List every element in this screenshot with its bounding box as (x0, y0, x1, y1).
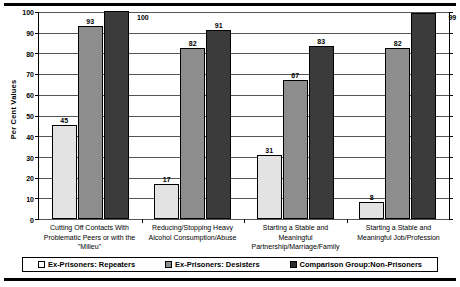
bar-slot: 31 (257, 12, 282, 219)
bar-slot: 99 (411, 12, 436, 219)
bar-slot: 91 (206, 12, 231, 219)
legend-item[interactable]: Ex-Prisoners: Repeaters (38, 260, 135, 269)
y-axis-tick-mark-right (449, 198, 453, 199)
category-label: Reducing/Stopping HeavyAlcohol Consumpti… (141, 223, 244, 252)
y-axis-tick-label: 30 (26, 154, 34, 161)
legend-swatch-icon (290, 261, 297, 268)
bar-value-label: 82 (189, 40, 197, 47)
y-axis-tick-mark-right (449, 74, 453, 75)
chart-legend: Ex-Prisoners: RepeatersEx-Prisoners: Des… (22, 257, 438, 272)
category-label-line: Starting a Stable and (348, 223, 449, 233)
bar-value-label: 31 (265, 147, 273, 154)
y-axis-tick-mark-right (449, 95, 453, 96)
bar[interactable] (309, 46, 334, 219)
legend-swatch-icon (165, 261, 172, 268)
bar-group: 316783 (244, 12, 347, 219)
y-axis-title: Per Cent Values (9, 50, 18, 170)
bar[interactable] (180, 48, 205, 219)
y-axis-tick-label: 80 (26, 50, 34, 57)
bar[interactable] (411, 13, 436, 219)
y-axis-tick-mark (35, 219, 39, 220)
bar[interactable] (359, 202, 384, 219)
y-axis-tick-mark-right (449, 33, 453, 34)
bar-value-label: 83 (317, 38, 325, 45)
category-label-line: Partnership/Marriage/Family (245, 242, 346, 252)
bar-slot: 67 (283, 12, 308, 219)
bar-slot: 82 (180, 12, 205, 219)
category-label-line: Starting a Stable and (245, 223, 346, 233)
y-axis-tick-label: 40 (26, 133, 34, 140)
y-axis-tick-mark-right (449, 12, 453, 13)
bar[interactable] (52, 125, 77, 219)
y-axis-tick-mark-right (449, 136, 453, 137)
bar-value-label: 67 (291, 72, 299, 79)
category-axis-labels: Cutting Off Contacts WithProblematic Pee… (38, 223, 450, 252)
chart-figure: Per Cent Values 0102030405060708090100 4… (0, 0, 460, 287)
y-axis-tick-mark-right (449, 157, 453, 158)
bar-value-label: 99 (448, 14, 456, 21)
legend-item[interactable]: Comparison Group:Non-Prisoners (290, 260, 423, 269)
bar-group: 88299 (347, 12, 450, 219)
category-label-line: "Milieu" (39, 242, 140, 252)
y-axis-tick-label: 20 (26, 175, 34, 182)
y-axis-tick-label: 70 (26, 71, 34, 78)
bar-slot: 82 (385, 12, 410, 219)
y-axis-tick-mark-right (449, 219, 453, 220)
category-label: Starting a Stable andMeaningfulPartnersh… (244, 223, 347, 252)
bar-group: 4593100 (39, 12, 142, 219)
bar-value-label: 82 (394, 40, 402, 47)
bar-slot: 93 (78, 12, 103, 219)
bar-slot: 100 (104, 12, 129, 219)
legend-item-label: Comparison Group:Non-Prisoners (300, 260, 423, 269)
bar-groups: 459310017829131678388299 (39, 12, 449, 219)
bar[interactable] (385, 48, 410, 219)
y-axis-tick-mark-right (449, 178, 453, 179)
legend-item[interactable]: Ex-Prisoners: Desisters (165, 260, 260, 269)
bar-slot: 83 (309, 12, 334, 219)
bar-value-label: 91 (215, 22, 223, 29)
plot-area: 0102030405060708090100 45931001782913167… (38, 12, 450, 220)
bar[interactable] (283, 80, 308, 219)
category-label-line: Meaningful Job/Profession (348, 233, 449, 243)
bar-slot: 17 (154, 12, 179, 219)
bar[interactable] (78, 26, 103, 219)
category-label: Starting a Stable andMeaningful Job/Prof… (347, 223, 450, 252)
bottom-rule (4, 278, 456, 281)
category-label: Cutting Off Contacts WithProblematic Pee… (38, 223, 141, 252)
bar-value-label: 45 (60, 117, 68, 124)
category-label-line: Alcohol Consumption/Abuse (142, 233, 243, 243)
y-axis-tick-label: 0 (30, 217, 34, 224)
legend-swatch-icon (38, 261, 45, 268)
y-axis-tick-label: 50 (26, 113, 34, 120)
y-axis-tick-mark-right (449, 116, 453, 117)
legend-item-label: Ex-Prisoners: Desisters (175, 260, 260, 269)
y-axis-tick-label: 90 (26, 29, 34, 36)
bar-value-label: 17 (163, 176, 171, 183)
bar[interactable] (154, 184, 179, 219)
bar-group: 178291 (142, 12, 245, 219)
bar[interactable] (206, 30, 231, 219)
y-axis-tick-mark-right (449, 53, 453, 54)
category-label-line: Reducing/Stopping Heavy (142, 223, 243, 233)
category-label-line: Cutting Off Contacts With (39, 223, 140, 233)
bar-slot: 45 (52, 12, 77, 219)
bar[interactable] (104, 11, 129, 219)
bar-value-label: 8 (370, 194, 374, 201)
top-rule (4, 3, 456, 6)
category-label-line: Problematic Peers or with the (39, 233, 140, 243)
bar-slot: 8 (359, 12, 384, 219)
y-axis-tick-label: 10 (26, 196, 34, 203)
bar[interactable] (257, 155, 282, 219)
legend-item-label: Ex-Prisoners: Repeaters (48, 260, 135, 269)
bar-value-label: 93 (86, 18, 94, 25)
y-axis-tick-label: 100 (22, 9, 34, 16)
y-axis-tick-label: 60 (26, 92, 34, 99)
category-label-line: Meaningful (245, 233, 346, 243)
